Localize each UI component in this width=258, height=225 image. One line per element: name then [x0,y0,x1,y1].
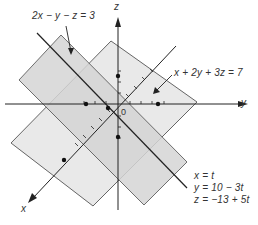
origin-label: 0 [121,107,126,117]
line-equation-y: y = 10 − 3t [194,182,243,193]
x-axis-label: x [21,203,26,214]
plane-2-equation: x + 2y + 3z = 7 [174,67,243,78]
z-axis-label: z [114,1,119,12]
z-axis-arrow-icon [115,17,121,27]
y-axis-label: y [241,97,246,108]
line-equation-x: x = t [194,170,214,181]
line-equation-z: z = −13 + 5t [194,194,250,205]
plane-1-equation: 2x − y − z = 3 [32,10,95,21]
